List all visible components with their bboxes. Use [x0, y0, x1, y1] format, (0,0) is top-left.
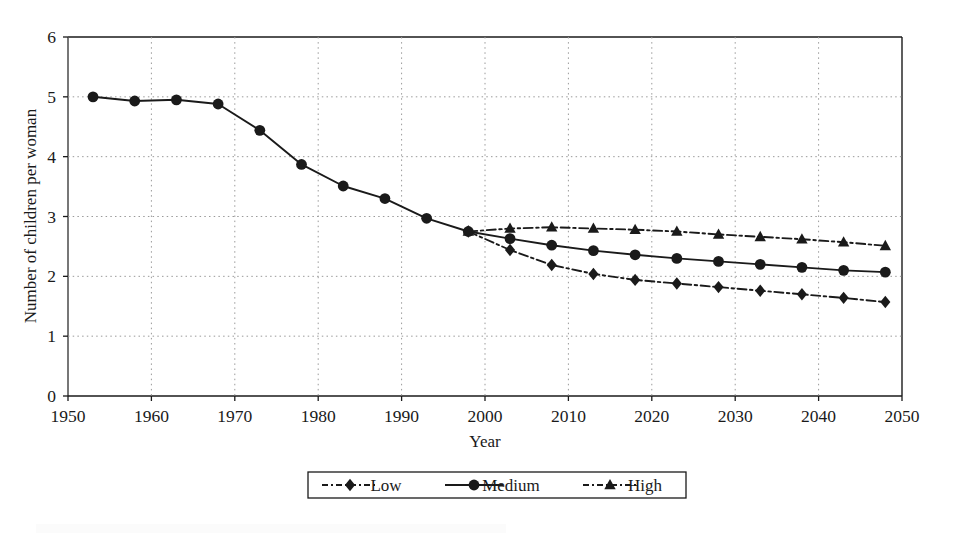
legend-label-high: High — [628, 476, 663, 495]
circle-marker-icon — [713, 256, 724, 267]
x-tick-label: 2000 — [468, 406, 503, 426]
chart-figure: 6543210 19501960197019801990200020102020… — [0, 0, 968, 538]
circle-marker-icon — [505, 233, 516, 244]
circle-marker-icon — [254, 125, 265, 136]
circle-marker-icon — [338, 181, 349, 192]
x-tick-label: 1980 — [301, 406, 336, 426]
y-tick-label: 3 — [47, 207, 56, 227]
x-tick-label: 2040 — [801, 406, 836, 426]
legend-label-low: Low — [370, 476, 402, 495]
y-tick-label: 5 — [47, 87, 56, 107]
y-tick-label: 0 — [47, 386, 56, 406]
circle-marker-icon — [469, 480, 480, 491]
x-axis-title: Year — [469, 432, 501, 451]
circle-marker-icon — [380, 193, 391, 204]
y-tick-label: 1 — [47, 326, 56, 346]
chart-legend: LowMediumHigh — [308, 472, 686, 498]
circle-marker-icon — [421, 213, 432, 224]
circle-marker-icon — [880, 267, 891, 278]
y-tick-label: 6 — [47, 27, 56, 47]
caption-fragment — [36, 524, 506, 533]
circle-marker-icon — [671, 253, 682, 264]
caption-fragment-strip — [36, 524, 506, 533]
circle-marker-icon — [588, 245, 599, 256]
x-tick-label: 2030 — [718, 406, 753, 426]
circle-marker-icon — [755, 259, 766, 270]
x-tick-label: 1970 — [217, 406, 252, 426]
circle-marker-icon — [88, 91, 99, 102]
legend-label-medium: Medium — [482, 476, 540, 495]
x-tick-label: 2050 — [885, 406, 920, 426]
circle-marker-icon — [213, 99, 224, 110]
fertility-projection-line-chart: 6543210 19501960197019801990200020102020… — [0, 0, 968, 538]
x-tick-label: 2020 — [634, 406, 669, 426]
y-tick-label: 4 — [47, 147, 56, 167]
x-tick-label: 1990 — [384, 406, 419, 426]
x-tick-label: 1950 — [51, 406, 86, 426]
circle-marker-icon — [546, 240, 557, 251]
y-tick-label: 2 — [47, 266, 56, 286]
x-tick-label: 2010 — [551, 406, 586, 426]
circle-marker-icon — [296, 159, 307, 170]
y-axis-title: Number of children per woman — [21, 108, 40, 323]
circle-marker-icon — [129, 96, 140, 107]
x-tick-label: 1960 — [134, 406, 169, 426]
circle-marker-icon — [630, 249, 641, 260]
circle-marker-icon — [171, 94, 182, 105]
circle-marker-icon — [797, 262, 808, 273]
circle-marker-icon — [838, 265, 849, 276]
